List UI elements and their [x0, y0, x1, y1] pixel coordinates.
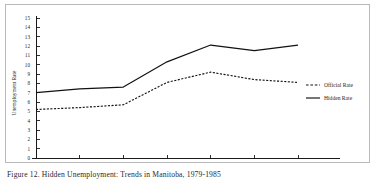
y-tick-label: 13: [25, 34, 31, 40]
figure-container: Unemployment Rate 0123456789101112131415…: [0, 0, 377, 180]
y-tick-label: 4: [27, 118, 30, 124]
y-tick-label: 10: [25, 62, 31, 68]
y-axis-title: Unemployment Rate: [11, 70, 17, 115]
y-axis-tick-marks: [36, 18, 40, 158]
legend-label-hidden-rate: Hidden Rate: [324, 95, 353, 101]
figure-caption: Figure 12. Hidden Unemployment: Trends i…: [7, 169, 371, 180]
y-tick-label: 6: [27, 99, 30, 105]
y-tick-label: 12: [25, 43, 31, 49]
y-tick-label: 7: [27, 90, 30, 96]
chart-legend: Official RateHidden Rate: [306, 82, 353, 101]
y-tick-label: 8: [27, 80, 30, 86]
y-tick-label: 1: [27, 146, 30, 152]
series-line-hidden-rate: [36, 45, 298, 93]
y-axis-tick-labels: 0123456789101112131415: [25, 15, 31, 161]
y-tick-label: 9: [27, 71, 30, 77]
figure-caption-text: Figure 12. Hidden Unemployment: Trends i…: [7, 169, 371, 180]
y-tick-label: 3: [27, 127, 30, 133]
chart-panel: Unemployment Rate 0123456789101112131415…: [5, 4, 370, 163]
line-chart: Unemployment Rate 0123456789101112131415…: [6, 5, 369, 162]
y-tick-label: 11: [25, 52, 30, 58]
y-tick-label: 14: [25, 24, 31, 30]
series-line-official-rate: [36, 72, 298, 109]
y-tick-label: 15: [25, 15, 31, 21]
legend-label-official-rate: Official Rate: [324, 82, 353, 88]
y-tick-label: 5: [27, 108, 30, 114]
x-axis-tick-marks: [36, 155, 298, 159]
y-tick-label: 0: [27, 155, 30, 161]
y-tick-label: 2: [27, 136, 30, 142]
